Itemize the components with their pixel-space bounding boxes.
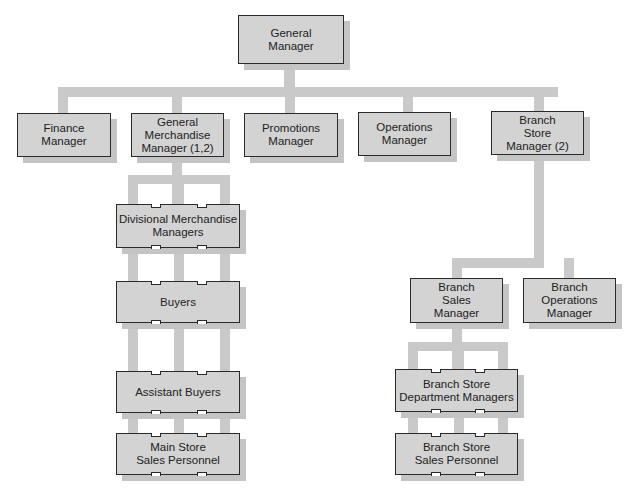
node-label: Branch Store Manager (2) (506, 114, 569, 153)
connector-drop-branch-ops (564, 258, 574, 280)
node-label: General Manager (268, 27, 313, 53)
connector-branch-horizontal (452, 258, 544, 268)
node-branch-store-manager: Branch Store Manager (2) (491, 111, 584, 155)
node-divisional-merchandise-managers: Divisional Merchandise Managers (116, 204, 240, 248)
notch (197, 281, 207, 285)
node-assistant-buyers: Assistant Buyers (116, 371, 240, 413)
notch (197, 410, 207, 414)
connector-drop-operations (403, 87, 413, 115)
node-label: Operations Manager (376, 121, 432, 147)
notch (197, 245, 207, 249)
node-general-merchandise-manager: General Merchandise Manager (1,2) (131, 113, 224, 157)
connector-drop-promotions (285, 87, 295, 115)
notch (151, 410, 161, 414)
node-label: Buyers (160, 296, 196, 309)
node-branch-sales-manager: Branch Sales Manager (410, 278, 503, 323)
node-label: Branch Store Department Managers (399, 378, 513, 404)
node-branch-store-sales-personnel: Branch Store Sales Personnel (395, 433, 518, 475)
node-label: Finance Manager (41, 122, 86, 148)
notch (431, 409, 441, 413)
notch (197, 204, 207, 208)
connector-drop-gmm (172, 87, 182, 115)
connector-drop-finance (58, 87, 68, 115)
notch (475, 472, 485, 476)
node-main-store-sales-personnel: Main Store Sales Personnel (116, 433, 240, 475)
node-label: Assistant Buyers (135, 386, 221, 399)
node-label: Branch Store Sales Personnel (415, 441, 499, 467)
notch (151, 472, 161, 476)
notch (475, 433, 485, 437)
node-operations-manager: Operations Manager (358, 112, 451, 156)
notch (151, 204, 161, 208)
node-label: Divisional Merchandise Managers (119, 213, 237, 239)
node-label: Branch Operations Manager (541, 281, 597, 320)
notch (475, 409, 485, 413)
node-finance-manager: Finance Manager (17, 113, 111, 157)
node-branch-store-department-managers: Branch Store Department Managers (395, 369, 518, 412)
notch (197, 433, 207, 437)
node-branch-operations-manager: Branch Operations Manager (523, 278, 616, 323)
notch (431, 369, 441, 373)
notch (431, 472, 441, 476)
notch (197, 320, 207, 324)
node-general-manager: General Manager (238, 15, 344, 64)
notch (151, 320, 161, 324)
notch (197, 371, 207, 375)
node-label: Promotions Manager (262, 122, 320, 148)
notch (151, 245, 161, 249)
notch (151, 281, 161, 285)
notch (475, 369, 485, 373)
node-buyers: Buyers (116, 281, 240, 323)
connector-branch-down (534, 158, 544, 268)
notch (197, 472, 207, 476)
connector-level1-horizontal (58, 87, 558, 97)
node-promotions-manager: Promotions Manager (244, 113, 338, 157)
node-label: Branch Sales Manager (434, 281, 479, 320)
notch (431, 433, 441, 437)
node-label: General Merchandise Manager (1,2) (141, 116, 213, 155)
notch (151, 371, 161, 375)
node-label: Main Store Sales Personnel (136, 441, 220, 467)
connector-drop-branch-sales (452, 258, 462, 280)
notch (151, 433, 161, 437)
